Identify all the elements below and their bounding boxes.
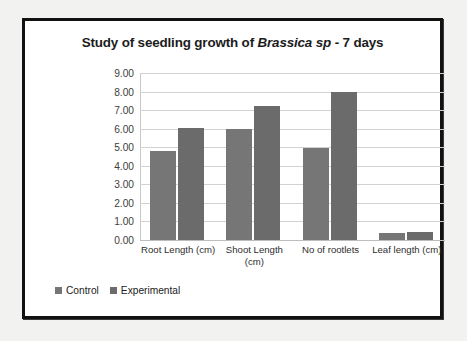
chart-title-plain: Study of seedling growth of <box>82 35 258 50</box>
chart-title: Study of seedling growth of Brassica sp … <box>25 35 440 50</box>
y-axis-tick-label: 3.00 <box>74 179 134 190</box>
bar-experimental[interactable] <box>331 92 357 240</box>
legend-label: Experimental <box>121 285 180 296</box>
category-label: No of rootlets <box>293 244 369 256</box>
bar-control[interactable] <box>303 148 329 240</box>
plot-area <box>140 73 445 240</box>
bar-control[interactable] <box>379 233 405 240</box>
y-axis-tick-label: 9.00 <box>74 68 134 79</box>
gridline <box>140 240 445 241</box>
bar-group <box>293 73 369 240</box>
chart-title-italic: Brassica sp <box>258 35 332 50</box>
y-axis-tick-label: 5.00 <box>74 142 134 153</box>
category-label: Leaf length (cm) <box>369 244 445 256</box>
y-axis-tick-label: 0.00 <box>74 235 134 246</box>
category-axis-labels: Root Length (cm)Shoot Length (cm)No of r… <box>140 244 445 278</box>
legend-swatch-icon <box>110 287 117 294</box>
bar-control[interactable] <box>150 151 176 240</box>
bar-experimental[interactable] <box>407 232 433 240</box>
legend-swatch-icon <box>55 287 62 294</box>
bar-experimental[interactable] <box>254 106 280 240</box>
y-axis-tick-label: 4.00 <box>74 160 134 171</box>
y-axis-tick-label: 6.00 <box>74 123 134 134</box>
bar-control[interactable] <box>226 129 252 240</box>
slide-frame: Study of seedling growth of Brassica sp … <box>22 18 443 319</box>
category-label: Shoot Length (cm) <box>216 244 292 268</box>
y-axis-tick-label: 1.00 <box>74 216 134 227</box>
bar-group <box>216 73 292 240</box>
legend-label: Control <box>66 285 99 296</box>
y-axis-tick-label: 7.00 <box>74 105 134 116</box>
bar-chart: Study of seedling growth of Brassica sp … <box>25 21 440 316</box>
legend-item-control[interactable]: Control <box>55 285 99 296</box>
legend-item-experimental[interactable]: Experimental <box>110 285 180 296</box>
chart-title-tail: - 7 days <box>331 35 383 50</box>
chart-legend: ControlExperimental <box>55 285 180 296</box>
category-label: Root Length (cm) <box>140 244 216 256</box>
y-axis-tick-label: 8.00 <box>74 86 134 97</box>
bar-group <box>369 73 445 240</box>
bar-group <box>140 73 216 240</box>
slide-page: Study of seedling growth of Brassica sp … <box>0 0 467 341</box>
bar-experimental[interactable] <box>178 128 204 240</box>
y-axis-labels: 9.008.007.006.005.004.003.002.001.000.00 <box>70 73 134 240</box>
y-axis-tick-label: 2.00 <box>74 197 134 208</box>
